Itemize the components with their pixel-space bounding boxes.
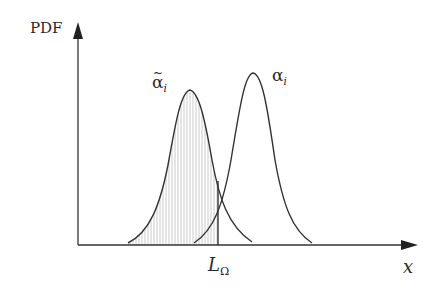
shaded-region bbox=[128, 90, 218, 245]
x-axis-arrow-icon bbox=[401, 240, 418, 250]
x-axis-label: x bbox=[403, 258, 413, 276]
diagram-canvas bbox=[0, 0, 436, 292]
tilde-accent: ~ bbox=[153, 67, 163, 79]
y-axis-label: PDF bbox=[30, 21, 63, 36]
y-axis-arrow-icon bbox=[73, 22, 83, 39]
threshold-label: LΩ bbox=[208, 256, 229, 277]
curve-label-alpha-tilde: ~αi bbox=[152, 74, 167, 93]
pdf-diagram: PDF ~αi αi LΩ x bbox=[0, 0, 436, 292]
curve-label-alpha: αi bbox=[272, 67, 287, 86]
